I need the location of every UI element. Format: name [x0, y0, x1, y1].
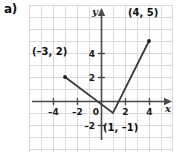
y-tick-label-4: 4: [89, 49, 95, 59]
x-tick-label-neg4: –4: [48, 107, 59, 117]
coordinate-plane: x y –4 –2 0 2 4 –2 2 4 (–3, 2): [0, 0, 180, 160]
point-label-4-5: (4, 5): [128, 7, 158, 18]
x-tick-label-4: 4: [146, 107, 152, 117]
y-axis-label: y: [91, 6, 99, 17]
point-label-neg3-2: (–3, 2): [32, 46, 67, 57]
x-tick-label-zero: 0: [93, 107, 99, 117]
point-label-1-neg1: (1, –1): [103, 122, 138, 133]
x-tick-label-2: 2: [122, 107, 128, 117]
x-tick-label-neg2: –2: [72, 107, 83, 117]
y-axis: [98, 8, 105, 140]
endpoint-marker-left: [63, 75, 67, 79]
y-tick-label-2: 2: [89, 73, 95, 83]
y-tick-label-neg2: –2: [84, 121, 95, 131]
endpoint-marker-right: [147, 39, 151, 43]
x-axis-label: x: [164, 103, 172, 114]
graph-figure: a): [0, 0, 180, 160]
